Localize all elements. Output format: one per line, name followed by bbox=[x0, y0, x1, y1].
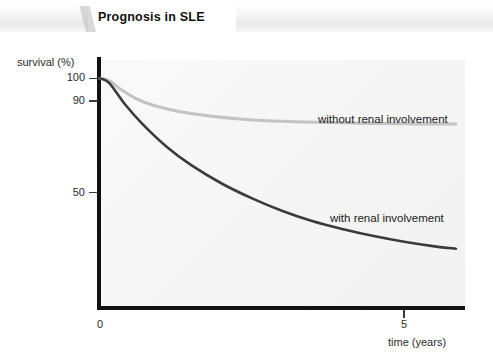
series-label-with-renal-involvement: with renal involvement bbox=[330, 212, 444, 224]
chart-figure: survival (%) time (years) 100 90 50 0 5 … bbox=[0, 0, 493, 358]
series-label-without-renal-involvement: without renal involvement bbox=[318, 113, 448, 125]
series-curves bbox=[0, 0, 493, 358]
